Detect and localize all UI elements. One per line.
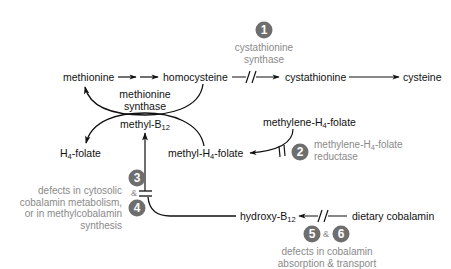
defect-5-6-label: defects in cobalamin absorption & transp…: [278, 246, 376, 269]
node-homocysteine: homocysteine: [163, 71, 228, 83]
node-methyl-h4-folate: methyl-H4-folate: [168, 147, 243, 159]
defect-3-4-line-2: cobalamin metabolism,: [0, 197, 122, 209]
defect-3-4-label: defects in cytosolic cobalamin metabolis…: [0, 185, 122, 231]
defect-1-line-1: cystathionine: [235, 42, 293, 54]
defect-5-badge: 5: [304, 226, 321, 243]
defect-5-6-ampersand: &: [323, 229, 329, 239]
defect-3-4-ampersand: &: [131, 188, 137, 198]
enzyme-line-1: methionine: [119, 89, 170, 101]
methylene-to-methyl-folate-blocked-arrow: [250, 129, 293, 157]
enzyme-methionine-synthase: methionine synthase: [119, 89, 170, 112]
defect-2-badge: 2: [292, 144, 309, 161]
node-methyl-b12: methyl-B12: [120, 118, 170, 130]
defect-4-badge: 4: [129, 200, 146, 217]
defect-5-6-line-1: defects in cobalamin: [278, 246, 376, 258]
defect-1-line-2: synthase: [235, 54, 293, 66]
defect-3-badge: 3: [129, 170, 146, 187]
defect-2-label: methylene-H4-folate reductase: [314, 139, 403, 162]
node-methionine: methionine: [63, 71, 114, 83]
dietary-to-hydroxy-blocked-arrow: [299, 209, 347, 223]
homocysteine-to-cystathionine-blocked-arrow: [232, 70, 279, 84]
defect-3-4-line-3: or in methylcobalamin: [0, 208, 122, 220]
node-cystathionine: cystathionine: [285, 71, 346, 83]
node-h4-folate: H4-folate: [60, 147, 101, 159]
defect-3-4-line-1: defects in cytosolic: [0, 185, 122, 197]
node-methylene-h4-folate: methylene-H4-folate: [263, 116, 356, 128]
node-dietary-cobalamin: dietary cobalamin: [352, 210, 434, 222]
defect-2-line-2: reductase: [314, 151, 403, 163]
defect-2-line-1: methylene-H4-folate: [314, 139, 403, 151]
node-hydroxy-b12: hydroxy-B12: [240, 210, 296, 222]
node-cysteine: cysteine: [403, 71, 442, 83]
hydroxy-to-methyl-b12-path: [148, 197, 236, 216]
defect-5-6-line-2: absorption & transport: [278, 258, 376, 269]
enzyme-line-2: synthase: [119, 101, 170, 113]
defect-6-badge: 6: [333, 226, 350, 243]
pathway-diagram: 1 cystathionine synthase methionine homo…: [0, 0, 451, 269]
defect-1-label: cystathionine synthase: [235, 42, 293, 65]
defect-1-badge: 1: [256, 22, 273, 39]
defect-3-4-line-4: synthesis: [0, 220, 122, 232]
